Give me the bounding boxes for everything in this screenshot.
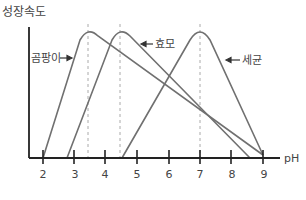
yeast-label: 효모 [155,38,175,51]
tick-label-7: 7 [197,168,204,181]
tick-label-4: 4 [102,168,109,181]
tick-label-3: 3 [72,168,79,181]
tick-label-8: 8 [229,168,236,181]
y-axis-label: 성장속도 [2,5,46,19]
bacteria-label: 세균 [242,54,262,67]
tick-label-5: 5 [134,168,141,181]
x-ticks [43,150,263,164]
tick-label-2: 2 [40,168,47,181]
bacteria-arrow-icon [226,58,240,63]
mold-curve [43,32,263,158]
mold-label: 곰팡이 [31,52,61,65]
tick-label-6: 6 [166,168,173,181]
yeast-arrow-icon [141,42,153,47]
tick-label-9: 9 [261,168,268,181]
x-axis-label: pH [284,152,299,165]
x-tick-labels: 2 3 4 5 6 7 8 9 [40,168,268,181]
growth-curves [43,32,263,158]
mold-arrow-icon [60,56,72,61]
ph-growth-chart: 성장속도 2 3 4 5 6 7 8 9 pH 곰팡 [0,0,306,200]
